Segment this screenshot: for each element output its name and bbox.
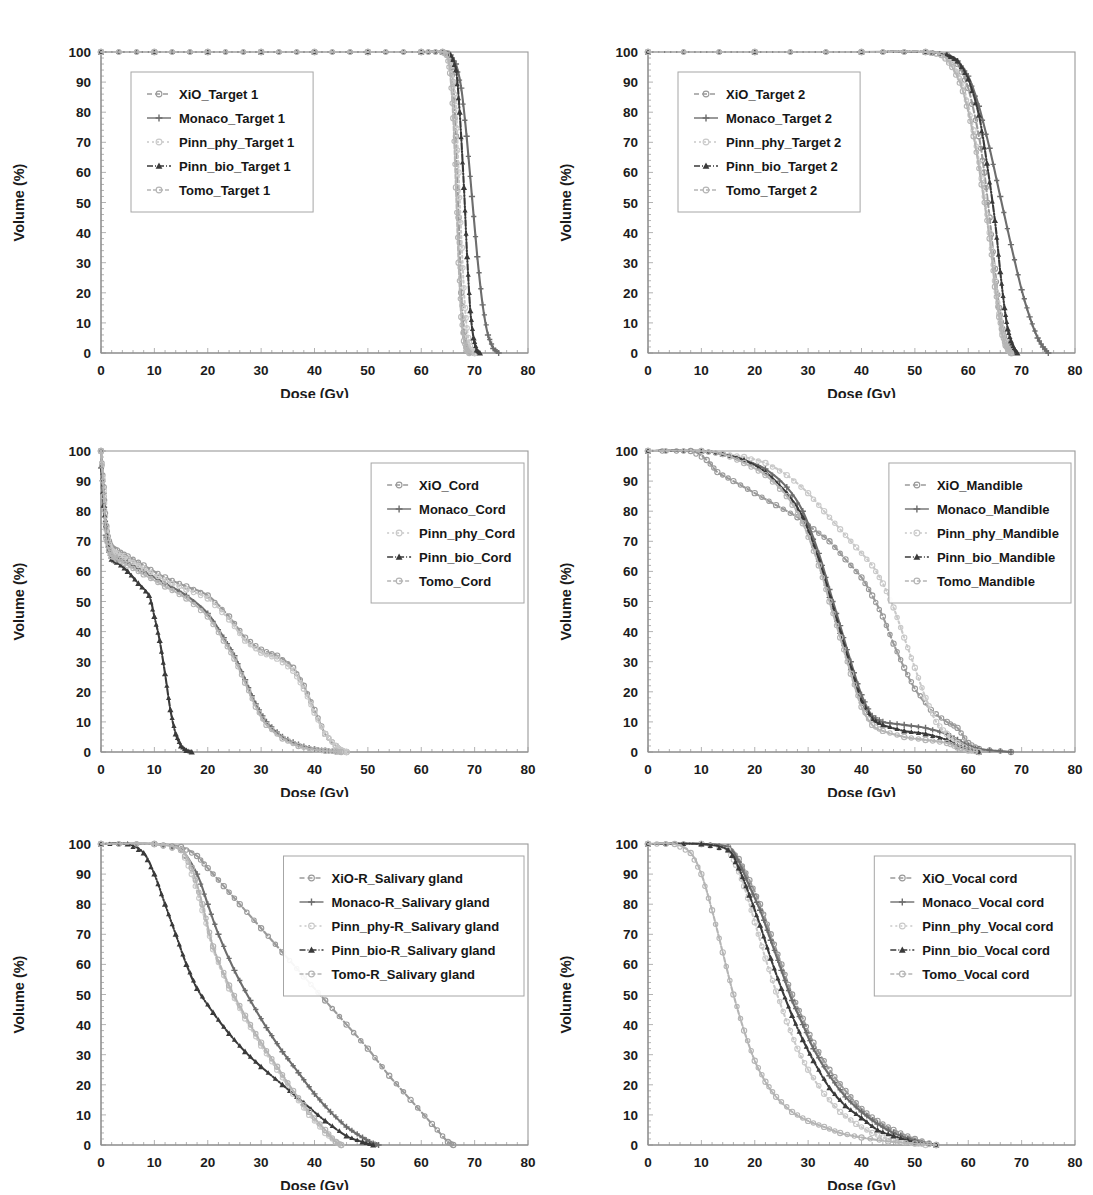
legend-label: Tomo-R_Salivary gland	[332, 967, 476, 982]
x-tick-label: 40	[307, 762, 322, 777]
y-tick-label: 10	[76, 316, 91, 331]
y-tick-label: 10	[76, 1108, 91, 1123]
x-tick-label: 10	[147, 1155, 162, 1170]
x-tick-label: 0	[644, 762, 652, 777]
legend-label: XiO-R_Salivary gland	[332, 871, 464, 886]
y-tick-label: 40	[76, 226, 91, 241]
y-tick-label: 20	[623, 1078, 638, 1093]
y-tick-label: 0	[83, 745, 91, 760]
y-tick-label: 60	[76, 957, 91, 972]
y-tick-label: 60	[76, 564, 91, 579]
x-tick-label: 70	[467, 363, 482, 378]
x-tick-label: 70	[467, 1155, 482, 1170]
y-tick-label: 60	[623, 564, 638, 579]
chart-cord: 010203040506070800102030405060708090100D…	[0, 399, 546, 797]
x-tick-label: 10	[694, 363, 709, 378]
y-tick-label: 80	[76, 504, 91, 519]
chart-mandible: 010203040506070800102030405060708090100D…	[547, 399, 1093, 797]
legend-label: Monaco_Vocal cord	[922, 895, 1044, 910]
x-tick-label: 50	[360, 363, 375, 378]
legend-label: Pinn_phy_Mandible	[937, 526, 1059, 541]
legend-label: Monaco_Target 2	[726, 111, 832, 126]
y-tick-label: 70	[623, 534, 638, 549]
x-tick-label: 60	[414, 363, 429, 378]
x-tick-label: 40	[307, 1155, 322, 1170]
y-axis-title: Volume (%)	[558, 562, 574, 640]
y-tick-label: 30	[76, 655, 91, 670]
y-tick-label: 90	[76, 75, 91, 90]
x-tick-label: 40	[854, 363, 869, 378]
legend-target2: XiO_Target 2Monaco_Target 2Pinn_phy_Targ…	[678, 72, 860, 212]
y-tick-label: 20	[76, 1078, 91, 1093]
x-tick-label: 20	[747, 762, 762, 777]
y-tick-label: 0	[630, 745, 638, 760]
y-tick-label: 100	[615, 45, 638, 60]
x-tick-label: 60	[961, 762, 976, 777]
y-tick-label: 50	[76, 196, 91, 211]
legend-label: Monaco_Target 1	[179, 111, 285, 126]
x-tick-label: 10	[694, 1155, 709, 1170]
legend-target1: XiO_Target 1Monaco_Target 1Pinn_phy_Targ…	[131, 72, 313, 212]
legend-label: Pinn_bio-R_Salivary gland	[332, 943, 496, 958]
legend-label: Monaco-R_Salivary gland	[332, 895, 490, 910]
legend-label: XiO_Mandible	[937, 478, 1023, 493]
x-tick-label: 30	[254, 363, 269, 378]
x-tick-label: 60	[414, 1155, 429, 1170]
x-tick-label: 30	[801, 363, 816, 378]
x-tick-label: 40	[307, 363, 322, 378]
panel-target2: 010203040506070800102030405060708090100D…	[547, 0, 1093, 398]
x-tick-label: 30	[801, 762, 816, 777]
x-tick-label: 60	[414, 762, 429, 777]
panel-cord: 010203040506070800102030405060708090100D…	[0, 399, 546, 797]
chart-vocal_cord: 010203040506070800102030405060708090100D…	[547, 792, 1093, 1190]
x-tick-label: 70	[1014, 363, 1029, 378]
legend-label: Pinn_bio_Vocal cord	[922, 943, 1050, 958]
y-tick-label: 70	[76, 534, 91, 549]
x-tick-label: 10	[147, 762, 162, 777]
x-tick-label: 70	[467, 762, 482, 777]
y-tick-label: 20	[76, 685, 91, 700]
legend-label: Tomo_Target 2	[726, 183, 817, 198]
y-axis-title: Volume (%)	[11, 955, 27, 1033]
legend-vocal_cord: XiO_Vocal cordMonaco_Vocal cordPinn_phy_…	[874, 856, 1071, 996]
x-tick-label: 20	[200, 1155, 215, 1170]
x-axis-title: Dose (Gy)	[827, 386, 896, 398]
y-tick-label: 100	[68, 837, 91, 852]
x-tick-label: 30	[801, 1155, 816, 1170]
y-tick-label: 70	[76, 135, 91, 150]
x-tick-label: 10	[147, 363, 162, 378]
y-tick-label: 10	[76, 715, 91, 730]
y-tick-label: 80	[623, 105, 638, 120]
x-tick-label: 0	[97, 1155, 105, 1170]
x-tick-label: 0	[644, 363, 652, 378]
dvh-figure-grid: 010203040506070800102030405060708090100D…	[0, 0, 1093, 1195]
y-tick-label: 20	[623, 685, 638, 700]
legend-label: Pinn_bio_Cord	[419, 550, 512, 565]
y-tick-label: 0	[630, 346, 638, 361]
x-tick-label: 80	[1067, 1155, 1082, 1170]
y-tick-label: 100	[68, 444, 91, 459]
legend-label: Pinn_bio_Target 2	[726, 159, 838, 174]
x-tick-label: 60	[961, 363, 976, 378]
x-tick-label: 60	[961, 1155, 976, 1170]
panel-vocal-cord: 010203040506070800102030405060708090100D…	[547, 792, 1093, 1190]
x-tick-label: 80	[1067, 762, 1082, 777]
y-tick-label: 100	[68, 45, 91, 60]
legend-salivary_gland: XiO-R_Salivary glandMonaco-R_Salivary gl…	[284, 856, 525, 996]
y-tick-label: 80	[623, 504, 638, 519]
x-tick-label: 40	[854, 1155, 869, 1170]
y-tick-label: 30	[76, 256, 91, 271]
x-tick-label: 20	[200, 762, 215, 777]
legend-cord: XiO_CordMonaco_CordPinn_phy_CordPinn_bio…	[371, 463, 524, 603]
y-tick-label: 100	[615, 837, 638, 852]
y-axis-title: Volume (%)	[558, 955, 574, 1033]
y-axis-title: Volume (%)	[558, 163, 574, 241]
legend-label: Monaco_Mandible	[937, 502, 1050, 517]
x-tick-label: 0	[97, 762, 105, 777]
y-tick-label: 90	[76, 474, 91, 489]
y-tick-label: 80	[76, 897, 91, 912]
y-tick-label: 50	[623, 196, 638, 211]
x-tick-label: 50	[360, 762, 375, 777]
x-axis-title: Dose (Gy)	[827, 1178, 896, 1190]
y-tick-label: 80	[623, 897, 638, 912]
